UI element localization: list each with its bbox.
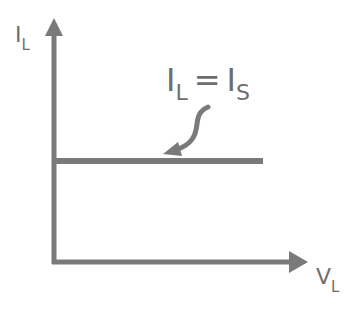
annotation-equation: IL=IS [166, 61, 250, 105]
pointer-arrow-icon [163, 107, 208, 156]
x-axis-label: VL [316, 264, 340, 296]
x-axis [52, 251, 308, 273]
y-axis-label: IL [15, 22, 31, 54]
iv-diagram: IL VL IL=IS [0, 0, 361, 312]
x-axis-arrowhead-icon [289, 251, 308, 273]
y-axis [45, 18, 63, 264]
y-axis-arrowhead-icon [45, 18, 63, 36]
